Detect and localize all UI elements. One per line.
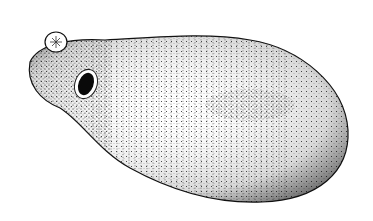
oral-sucker (45, 32, 67, 52)
organism-illustration (0, 0, 373, 221)
